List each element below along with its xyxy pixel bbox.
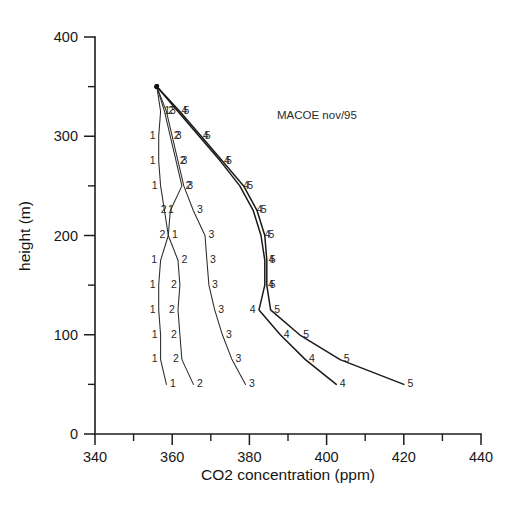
point-label-3: 3 (212, 278, 218, 290)
point-label-1: 1 (172, 228, 178, 240)
x-tick-label: 400 (314, 449, 338, 465)
point-label-1: 1 (150, 303, 156, 315)
point-label-1: 1 (152, 179, 158, 191)
point-label-5: 5 (303, 328, 309, 340)
co2-profile-figure: 0100200300400340360380400420440 11111111… (0, 0, 522, 510)
x-tick-label: 360 (160, 449, 184, 465)
point-label-1: 1 (150, 154, 156, 166)
x-tick-label: 440 (469, 449, 493, 465)
y-tick-label: 300 (54, 128, 78, 144)
point-label-5: 5 (274, 303, 280, 315)
point-label-5: 5 (407, 377, 413, 389)
point-label-5: 5 (183, 104, 189, 116)
series-line-5 (157, 87, 404, 385)
point-label-3: 3 (249, 377, 255, 389)
y-axis-title: height (m) (16, 201, 33, 271)
series-line-4 (157, 87, 336, 385)
point-label-5: 5 (344, 352, 350, 364)
x-axis-title: CO2 concentration (ppm) (201, 466, 375, 483)
point-label-1: 1 (150, 129, 156, 141)
point-label-4: 4 (250, 303, 256, 315)
point-label-5: 5 (268, 228, 274, 240)
point-label-3: 3 (187, 179, 193, 191)
point-label-3: 3 (176, 129, 182, 141)
point-label-2: 2 (171, 328, 177, 340)
point-label-3: 3 (226, 328, 232, 340)
point-label-2: 2 (159, 228, 165, 240)
point-label-5: 5 (270, 278, 276, 290)
y-tick-label: 400 (54, 29, 78, 45)
point-label-3: 3 (236, 352, 242, 364)
series-origin-marker (154, 84, 159, 89)
point-label-2: 2 (161, 203, 167, 215)
point-label-3: 3 (210, 253, 216, 265)
x-tick-label: 340 (83, 449, 107, 465)
point-label-3: 3 (182, 154, 188, 166)
point-label-1: 1 (150, 278, 156, 290)
point-label-2: 2 (171, 278, 177, 290)
y-tick-label: 0 (70, 426, 78, 442)
point-label-1: 1 (152, 328, 158, 340)
chart-canvas: 0100200300400340360380400420440 11111111… (0, 0, 522, 510)
point-label-4: 4 (309, 352, 315, 364)
point-label-3: 3 (218, 303, 224, 315)
axis-frame (95, 37, 481, 434)
point-label-4: 4 (284, 328, 290, 340)
point-label-5: 5 (247, 179, 253, 191)
x-tick-label: 380 (237, 449, 261, 465)
chart-annotation: MACOE nov/95 (277, 109, 357, 121)
point-label-5: 5 (270, 253, 276, 265)
point-label-1: 1 (170, 377, 176, 389)
data-series: 1111111111112222222222223333333333334444… (150, 84, 414, 389)
point-label-3: 3 (209, 228, 215, 240)
point-label-5: 5 (226, 154, 232, 166)
x-tick-label: 420 (392, 449, 416, 465)
y-tick-label: 100 (54, 327, 78, 343)
point-label-5: 5 (261, 203, 267, 215)
point-label-5: 5 (205, 129, 211, 141)
point-label-1: 1 (152, 352, 158, 364)
point-label-4: 4 (340, 377, 346, 389)
point-label-2: 2 (169, 303, 175, 315)
series-line-3 (157, 87, 246, 385)
point-label-2: 2 (182, 253, 188, 265)
series-4: 444444444444 (157, 87, 346, 390)
point-label-2: 2 (173, 352, 179, 364)
point-label-2: 2 (197, 377, 203, 389)
y-tick-label: 200 (54, 228, 78, 244)
point-label-1: 1 (151, 253, 157, 265)
axes: 0100200300400340360380400420440 (54, 29, 493, 465)
point-label-3: 3 (197, 203, 203, 215)
